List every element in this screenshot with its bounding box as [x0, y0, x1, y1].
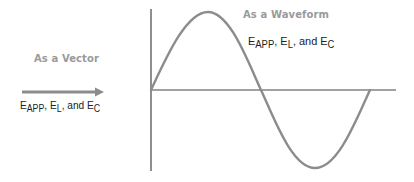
diagram-canvas: [0, 0, 414, 182]
vector-arrow: [22, 88, 104, 97]
e-app-symbol: EAPP: [248, 35, 274, 47]
vector-label: EAPP, EL, and EC: [20, 99, 100, 111]
vector-heading: As a Vector: [34, 53, 99, 64]
e-c-symbol: EC: [320, 35, 334, 47]
e-l-symbol: EL: [50, 99, 62, 111]
waveform-heading: As a Waveform: [243, 9, 329, 20]
e-app-symbol: EAPP: [20, 99, 44, 111]
e-c-symbol: EC: [87, 99, 100, 111]
waveform-label: EAPP, EL, and EC: [248, 35, 334, 47]
waveform-axes: [151, 9, 396, 171]
e-l-symbol: EL: [280, 35, 293, 47]
